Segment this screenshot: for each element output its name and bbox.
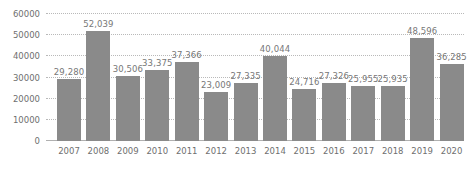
x-axis-tick-labels: 2007200820092010201120122013201420152016… [46,146,464,164]
bar-item: 36,285 [440,14,464,141]
bar-item: 27,326 [322,14,346,141]
bar-item: 48,596 [410,14,434,141]
plot-area: 29,28052,03930,50633,37537,36623,00927,3… [46,14,464,141]
x-tick-label: 2016 [322,146,346,156]
bar-item: 30,506 [116,14,140,141]
bar-item: 25,935 [381,14,405,141]
x-tick-label: 2012 [204,146,228,156]
bar-value-label: 40,044 [260,44,290,54]
bar-value-label: 23,009 [201,80,231,90]
bar [292,89,316,141]
y-tick-label: 20000 [13,94,40,104]
x-tick-label: 2018 [381,146,405,156]
x-tick-label: 2009 [116,146,140,156]
bar [175,62,199,141]
bar-item: 40,044 [263,14,287,141]
x-tick-label: 2008 [86,146,110,156]
bar-value-label: 25,955 [348,74,378,84]
bar-item: 24,716 [292,14,316,141]
bar [234,83,258,141]
bar [116,76,140,141]
bar [410,38,434,141]
bar-value-label: 27,335 [230,71,260,81]
bar [322,83,346,141]
x-tick-label: 2010 [145,146,169,156]
x-tick-label: 2020 [440,146,464,156]
x-tick-label: 2019 [410,146,434,156]
bar-item: 33,375 [145,14,169,141]
x-tick-label: 2013 [234,146,258,156]
bar-item: 52,039 [86,14,110,141]
x-tick-label: 2017 [351,146,375,156]
bar [86,31,110,141]
bar-value-label: 24,716 [289,77,319,87]
x-tick-label: 2015 [292,146,316,156]
bar [204,92,228,141]
bar-item: 29,280 [57,14,81,141]
x-tick-label: 2014 [263,146,287,156]
y-tick-label: 0 [35,136,40,146]
y-tick-label: 60000 [13,9,40,19]
bar-value-label: 37,366 [172,50,202,60]
bar-item: 25,955 [351,14,375,141]
bar-chart: 0100002000030000400005000060000 29,28052… [0,0,476,171]
bar-value-label: 52,039 [83,19,113,29]
bar [440,64,464,141]
bar [263,56,287,141]
y-tick-label: 40000 [13,51,40,61]
bar-value-label: 48,596 [407,26,437,36]
y-tick-label: 30000 [13,73,40,83]
bar-value-label: 30,506 [113,64,143,74]
y-tick-label: 10000 [13,115,40,125]
bar-item: 37,366 [175,14,199,141]
bar-series: 29,28052,03930,50633,37537,36623,00927,3… [46,14,464,141]
x-tick-label: 2011 [175,146,199,156]
bar-item: 23,009 [204,14,228,141]
bar [381,86,405,141]
x-tick-label: 2007 [57,146,81,156]
bar-value-label: 29,280 [54,67,84,77]
bar [351,86,375,141]
bar [145,70,169,141]
bar-item: 27,335 [234,14,258,141]
bar-value-label: 36,285 [436,52,466,62]
y-tick-label: 50000 [13,30,40,40]
bar-value-label: 27,326 [319,71,349,81]
bar [57,79,81,141]
y-axis-tick-labels: 0100002000030000400005000060000 [0,14,40,141]
bar-value-label: 25,935 [378,74,408,84]
bar-value-label: 33,375 [142,58,172,68]
